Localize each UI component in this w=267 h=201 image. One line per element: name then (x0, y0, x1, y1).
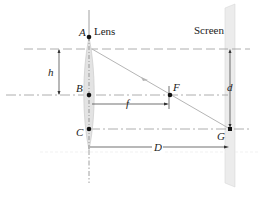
point-b (87, 93, 92, 98)
point-f (168, 93, 173, 98)
label-b: B (76, 82, 83, 94)
point-g (228, 127, 232, 131)
label-f: f (126, 97, 131, 109)
f-dimension (92, 86, 169, 109)
label-screen: Screen (194, 24, 224, 36)
label-h: h (48, 66, 54, 78)
label-f-point: F (172, 81, 180, 93)
point-a (87, 35, 92, 40)
point-c (87, 127, 92, 132)
h-dimension (58, 49, 61, 95)
label-d-capital: D (153, 141, 162, 153)
lens-screen-diagram: A Lens Screen h B F d f C G D (0, 0, 267, 201)
label-g: G (217, 130, 225, 142)
light-ray (92, 49, 230, 129)
label-lens: Lens (94, 25, 115, 37)
label-a: A (78, 26, 86, 38)
label-d: d (227, 81, 233, 93)
label-c: C (76, 126, 84, 138)
